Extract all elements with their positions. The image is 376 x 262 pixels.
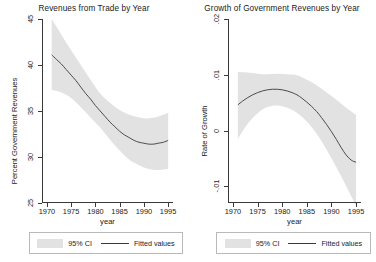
y-tick xyxy=(224,131,228,132)
y-tick-label: 45 xyxy=(26,15,35,23)
y-axis-line-left xyxy=(42,19,43,203)
legend-label-ci-right: 95% CI xyxy=(256,239,280,248)
x-tick-label: 1975 xyxy=(249,207,265,216)
x-tick-label: 1985 xyxy=(299,207,315,216)
y-tick xyxy=(224,186,228,187)
legend-label-fit-right: Fitted values xyxy=(321,239,362,248)
x-tick-label: 1970 xyxy=(39,207,55,216)
ci-band xyxy=(52,19,168,170)
figure-canvas: Revenues from Trade by Year Percent Gove… xyxy=(0,0,376,262)
y-tick xyxy=(38,65,42,66)
y-tick-label: 0 xyxy=(212,128,221,132)
y-tick-label: 40 xyxy=(26,61,35,69)
ci-band-swatch-icon xyxy=(225,239,251,248)
legend-right: 95% CI Fitted values xyxy=(216,232,371,254)
plot-svg-left xyxy=(42,19,173,203)
fitted-line-swatch-icon xyxy=(288,243,316,244)
legend-label-ci-left: 95% CI xyxy=(68,239,92,248)
legend-item-fit-right: Fitted values xyxy=(288,239,362,248)
y-tick xyxy=(38,111,42,112)
ci-band-swatch-icon xyxy=(37,239,63,248)
y-axis-title-left: Percent Government Revenues xyxy=(10,78,19,184)
x-axis-title-left: year xyxy=(42,217,173,226)
ci-band xyxy=(238,72,356,206)
fitted-line-swatch-icon xyxy=(101,243,129,244)
y-tick xyxy=(38,157,42,158)
y-tick-label: .01 xyxy=(212,70,221,80)
x-axis-line-right xyxy=(228,202,361,203)
y-axis-title-right: Rate of Growth xyxy=(200,105,209,156)
x-axis-title-right: year xyxy=(228,217,361,226)
x-tick-label: 1990 xyxy=(136,207,152,216)
x-tick-label: 1995 xyxy=(348,207,364,216)
plot-area-right: -.010.01.02197019751980198519901995 xyxy=(228,19,361,203)
panel-title-right: Growth of Government Revenues by Year xyxy=(188,4,376,13)
y-tick-label: -.01 xyxy=(212,180,221,193)
x-tick-label: 1975 xyxy=(63,207,79,216)
x-tick-label: 1985 xyxy=(111,207,127,216)
chart-panel-left: Revenues from Trade by Year Percent Gove… xyxy=(0,0,188,262)
y-tick xyxy=(38,203,42,204)
x-tick-label: 1980 xyxy=(87,207,103,216)
x-tick-label: 1970 xyxy=(225,207,241,216)
y-axis-line-right xyxy=(228,19,229,203)
x-tick-label: 1980 xyxy=(274,207,290,216)
x-axis-line-left xyxy=(42,202,173,203)
legend-label-fit-left: Fitted values xyxy=(134,239,175,248)
plot-area-left: 2530354045197019751980198519901995 xyxy=(42,19,173,203)
panel-title-left: Revenues from Trade by Year xyxy=(0,4,188,13)
legend-item-fit-left: Fitted values xyxy=(101,239,175,248)
legend-left: 95% CI Fitted values xyxy=(29,232,183,254)
y-tick-label: 30 xyxy=(26,153,35,161)
y-tick-label: 25 xyxy=(26,199,35,207)
legend-item-ci-right: 95% CI xyxy=(225,239,280,248)
y-tick xyxy=(224,19,228,20)
plot-svg-right xyxy=(228,19,361,203)
x-tick-label: 1995 xyxy=(160,207,176,216)
y-tick-label: .02 xyxy=(212,14,221,24)
chart-panel-right: Growth of Government Revenues by Year Ra… xyxy=(188,0,376,262)
x-tick-label: 1990 xyxy=(323,207,339,216)
y-tick xyxy=(38,19,42,20)
y-tick-label: 35 xyxy=(26,107,35,115)
y-tick xyxy=(224,75,228,76)
legend-item-ci-left: 95% CI xyxy=(37,239,92,248)
